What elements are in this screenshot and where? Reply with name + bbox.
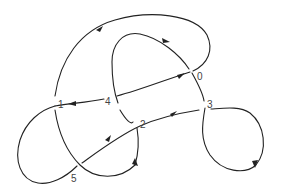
crossing-label-3: 3 xyxy=(207,100,213,110)
outer-arc-strand xyxy=(55,15,210,96)
arrow-strand-0-icon xyxy=(177,73,185,79)
crossing-label-2: 2 xyxy=(140,120,146,130)
lower-diagonal-strand xyxy=(82,110,199,163)
inner-arc-strand xyxy=(112,34,189,103)
knot-diagram xyxy=(0,0,282,196)
crossing-label-1: 1 xyxy=(58,100,64,110)
strand-1-down xyxy=(55,110,135,176)
arrow-strand-2-icon xyxy=(105,135,111,142)
arrow-inner-arc-icon xyxy=(162,38,170,43)
crossing-label-0: 0 xyxy=(197,72,203,82)
arrow-descending-2-icon xyxy=(132,158,138,166)
lower-left-strand xyxy=(18,106,77,183)
crossing-label-5: 5 xyxy=(71,174,77,184)
inner-descent-strand xyxy=(120,110,133,123)
crossing-label-4: 4 xyxy=(105,97,111,107)
